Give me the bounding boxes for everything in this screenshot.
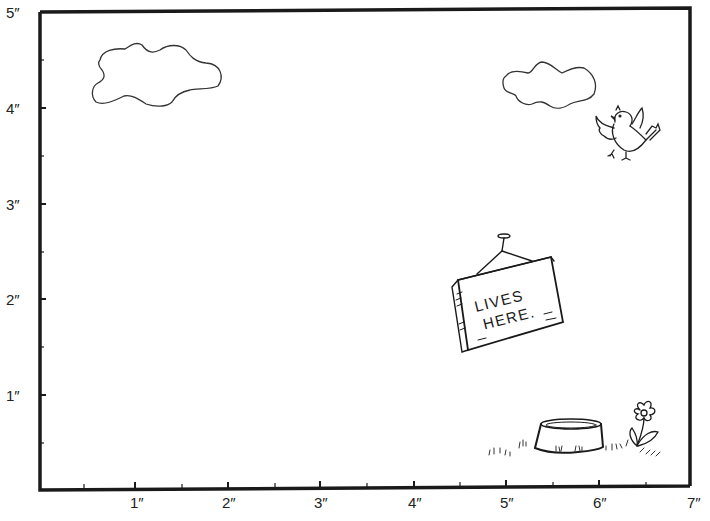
y-tick-label-5: 5″ xyxy=(6,4,20,21)
x-tick-label-6: 6″ xyxy=(593,494,607,511)
x-tick-label-5: 5″ xyxy=(500,494,514,511)
y-tick-label-1: 1″ xyxy=(6,387,20,404)
cloud-large-icon xyxy=(92,44,221,107)
sign-text: LIVES HERE. xyxy=(473,285,537,334)
diagram-canvas: LIVES HERE. 5″ 4″ 3″ xyxy=(0,0,710,521)
x-tick-label-4: 4″ xyxy=(408,494,422,511)
y-tick-label-4: 4″ xyxy=(6,100,20,117)
y-tick-label-3: 3″ xyxy=(6,196,20,213)
x-tick-label-7: 7″ xyxy=(687,494,701,511)
cloud-small-icon xyxy=(503,62,596,108)
y-tick-label-2: 2″ xyxy=(6,291,20,308)
x-tick-label-3: 3″ xyxy=(314,494,328,511)
axes-frame xyxy=(40,8,690,490)
drawing-svg: LIVES HERE. xyxy=(0,0,710,521)
x-tick-label-1: 1″ xyxy=(130,494,144,511)
flower-icon xyxy=(630,401,658,446)
x-tick-label-2: 2″ xyxy=(222,494,236,511)
pet-bowl-icon xyxy=(535,419,603,453)
bird-icon xyxy=(596,106,660,160)
